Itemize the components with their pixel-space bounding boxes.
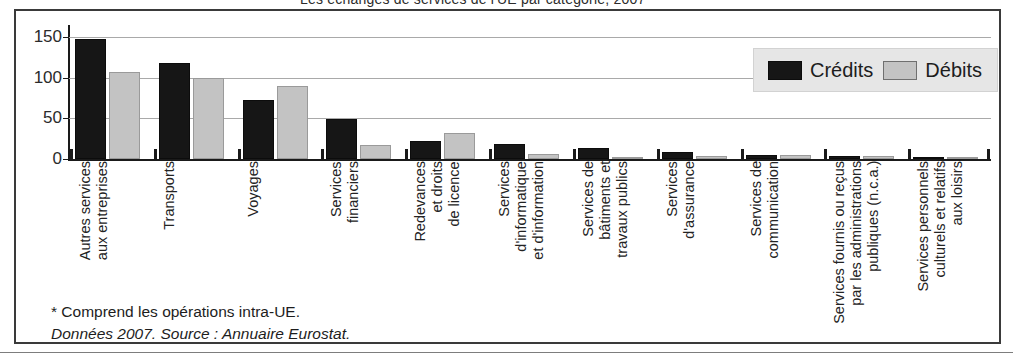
y-axis-line (68, 25, 70, 161)
bar-credits (662, 152, 693, 159)
x-tick-separator (489, 149, 492, 159)
x-axis-label: Services personnels culturels et relatif… (915, 161, 966, 292)
bar-credits (159, 63, 190, 159)
x-axis-label: Autres services aux entreprises (77, 161, 111, 260)
x-tick-separator (70, 149, 73, 159)
figure-footnote: * Comprend les opérations intra-UE. (51, 303, 951, 321)
bar-debits (277, 86, 308, 159)
legend-swatch-credits-icon (768, 61, 802, 80)
legend-item-credits: Crédits (768, 59, 873, 82)
bar-credits (326, 119, 357, 159)
y-tick-mark-100 (63, 78, 69, 79)
x-axis-label: Services financiers (328, 161, 362, 223)
x-tick-separator (824, 149, 827, 159)
bar-debits (780, 155, 811, 159)
x-tick-separator (405, 149, 408, 159)
x-axis-label: Services d'informatique et d'information (496, 161, 547, 260)
chart-frame: 050100150 Crédits Débits Autres services… (14, 9, 1001, 344)
bar-credits (829, 156, 860, 159)
legend-label-credits: Crédits (810, 59, 873, 82)
bar-debits (696, 156, 727, 159)
x-tick-separator (908, 149, 911, 159)
legend-label-debits: Débits (925, 59, 982, 82)
x-tick-separator (321, 149, 324, 159)
figure-source: Données 2007. Source : Annuaire Eurostat… (51, 325, 951, 343)
x-tick-separator (987, 149, 990, 159)
y-tick-mark-0 (63, 159, 69, 160)
figure-container: Les echanges de services de l'UE par cat… (0, 0, 1013, 361)
x-tick-separator (154, 149, 157, 159)
bar-debits (360, 145, 391, 159)
bar-credits (243, 100, 274, 159)
bar-debits (947, 157, 978, 159)
y-tick-label-100: 100 (34, 68, 62, 88)
x-axis-label: Services d'assurance (664, 161, 698, 239)
x-axis-label: Redevances et droits de licence (412, 161, 463, 242)
bar-debits (444, 133, 475, 159)
bar-debits (863, 156, 894, 159)
figure-title-strip: Les echanges de services de l'UE par cat… (0, 0, 1013, 8)
figure-title: Les echanges de services de l'UE par cat… (300, 0, 645, 7)
plot-area: 050100150 (69, 25, 991, 159)
chart-legend: Crédits Débits (753, 48, 998, 92)
y-tick-label-50: 50 (43, 108, 62, 128)
bar-credits (578, 148, 609, 159)
gridline-150 (69, 37, 991, 38)
bar-debits (528, 154, 559, 159)
x-tick-separator (657, 149, 660, 159)
bar-debits (109, 72, 140, 159)
x-axis-label: Services de bâtiments et travaux publics (580, 161, 631, 258)
bar-credits (746, 155, 777, 159)
x-tick-separator (573, 149, 576, 159)
x-axis-labels-group: Autres services aux entreprisesTransport… (69, 161, 991, 301)
bar-credits (494, 144, 525, 159)
x-axis-label: Services de communication (748, 161, 782, 259)
legend-swatch-debits-icon (883, 61, 917, 80)
y-tick-mark-50 (63, 118, 69, 119)
x-axis-label: Transports (161, 161, 178, 230)
bar-debits (193, 78, 224, 159)
y-tick-label-150: 150 (34, 27, 62, 47)
bar-credits (410, 141, 441, 159)
x-tick-separator (741, 149, 744, 159)
page-bottom-rule (0, 352, 1013, 353)
x-axis-label: Voyages (245, 161, 262, 217)
bar-credits (913, 157, 944, 159)
bar-credits (75, 39, 106, 159)
figure-notes: * Comprend les opérations intra-UE. Donn… (51, 303, 951, 343)
bar-debits (612, 157, 643, 159)
x-axis-label: Services fournis ou reçus par les admini… (831, 161, 882, 324)
y-tick-label-0: 0 (53, 149, 62, 169)
legend-item-debits: Débits (883, 59, 982, 82)
x-tick-separator (238, 149, 241, 159)
y-tick-mark-150 (63, 37, 69, 38)
